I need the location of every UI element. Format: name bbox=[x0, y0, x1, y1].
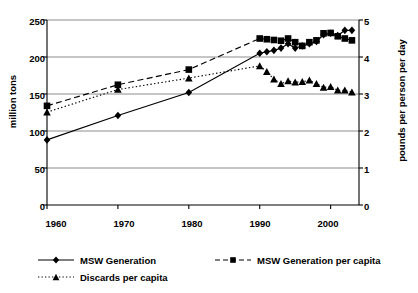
y-axis-left-tick-250: 250 bbox=[11, 16, 45, 27]
legend-label-msw-generation-per-capita: MSW Generation per capita bbox=[257, 255, 381, 266]
legend-swatch-msw-generation-per-capita bbox=[215, 254, 251, 266]
x-axis-tick-1960: 1960 bbox=[33, 218, 79, 229]
y-axis-right-tick-0: 0 bbox=[364, 201, 398, 212]
x-axis-tick-1980: 1980 bbox=[169, 218, 215, 229]
series-discards-per-capita bbox=[43, 62, 356, 115]
legend-label-msw-generation: MSW Generation bbox=[80, 255, 156, 266]
legend-swatch-msw-generation bbox=[38, 254, 74, 266]
y-axis-right-tick-4: 4 bbox=[364, 53, 398, 64]
series-msw-generation-per-capita bbox=[44, 30, 356, 109]
y-axis-left-tick-0: 0 bbox=[11, 201, 45, 212]
chart-legend: MSW Generation MSW Generation per capita… bbox=[0, 252, 418, 293]
chart-figure: million tons pounds per person per day 2… bbox=[0, 0, 418, 293]
plot-area bbox=[0, 0, 418, 293]
y-axis-right-tick-2: 2 bbox=[364, 127, 398, 138]
y-axis-right-tick-1: 1 bbox=[364, 164, 398, 175]
y-axis-left-tick-150: 150 bbox=[11, 90, 45, 101]
x-axis-tick-2000: 2000 bbox=[305, 218, 351, 229]
y-axis-left-tick-200: 200 bbox=[11, 53, 45, 64]
y-axis-right-tick-3: 3 bbox=[364, 90, 398, 101]
legend-swatch-discards-per-capita bbox=[38, 271, 74, 283]
legend-label-discards-per-capita: Discards per capita bbox=[80, 272, 168, 283]
y-axis-left-tick-50: 50 bbox=[11, 164, 45, 175]
x-axis-tick-1970: 1970 bbox=[101, 218, 147, 229]
y-axis-left-tick-100: 100 bbox=[11, 127, 45, 138]
y-axis-right-tick-5: 5 bbox=[364, 16, 398, 27]
x-axis-tick-1990: 1990 bbox=[237, 218, 283, 229]
